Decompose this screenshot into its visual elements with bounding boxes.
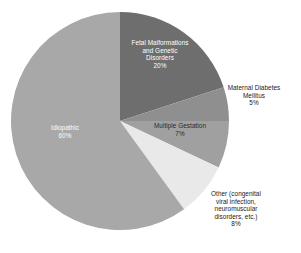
slice-label-line: Disorders [122, 54, 198, 62]
slice-label-line: Multiple Gestation [144, 122, 216, 130]
slice-label-line: 5% [212, 99, 296, 107]
slice-label-line: Other (congenital [192, 190, 280, 198]
slice-label-line: Fetal Malformations [122, 39, 198, 47]
slice-label-fetal-malformations: Fetal Malformationsand GeneticDisorders2… [122, 39, 198, 69]
slice-label-multiple-gestation: Multiple Gestation7% [144, 122, 216, 137]
slice-label-line: and Genetic [122, 47, 198, 55]
pie-chart-figure: Fetal Malformationsand GeneticDisorders2… [0, 0, 301, 253]
slice-label-line: neuromuscular [192, 205, 280, 213]
slice-label-line: 8% [192, 220, 280, 228]
slice-label-line: Mellitus [212, 92, 296, 100]
slice-label-line: disorders, etc.) [192, 213, 280, 221]
slice-label-line: 7% [144, 130, 216, 138]
slice-label-other-causes: Other (congenitalviral infection,neuromu… [192, 190, 280, 228]
slice-label-line: 60% [32, 132, 98, 140]
slice-label-line: viral infection, [192, 198, 280, 206]
slice-label-line: Maternal Diabetes [212, 84, 296, 92]
slice-label-maternal-diabetes-mellitus: Maternal DiabetesMellitus5% [212, 84, 296, 107]
slice-label-idiopathic: Idiopathic60% [32, 124, 98, 139]
slice-label-line: Idiopathic [32, 124, 98, 132]
slice-label-line: 20% [122, 62, 198, 70]
